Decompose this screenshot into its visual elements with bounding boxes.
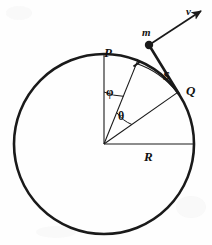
diagram-canvas [0,0,212,245]
mass-dot [145,41,153,49]
velocity-vector-line [149,11,201,45]
label-radius-r: R [144,150,153,163]
wrapped-string-arc [137,64,178,93]
radius-to-p-line [104,61,138,144]
label-angle-phi: φ [106,86,114,98]
label-mass-m: m [142,27,151,38]
physics-diagram-figure: P Q S R m v φ θ [0,0,212,245]
radius-to-q-line [104,92,178,144]
label-angle-theta: θ [118,110,124,122]
label-point-p: P [104,46,112,59]
label-velocity-v: v [186,6,191,17]
label-string-s: S [163,70,170,82]
label-point-q: Q [186,84,195,97]
